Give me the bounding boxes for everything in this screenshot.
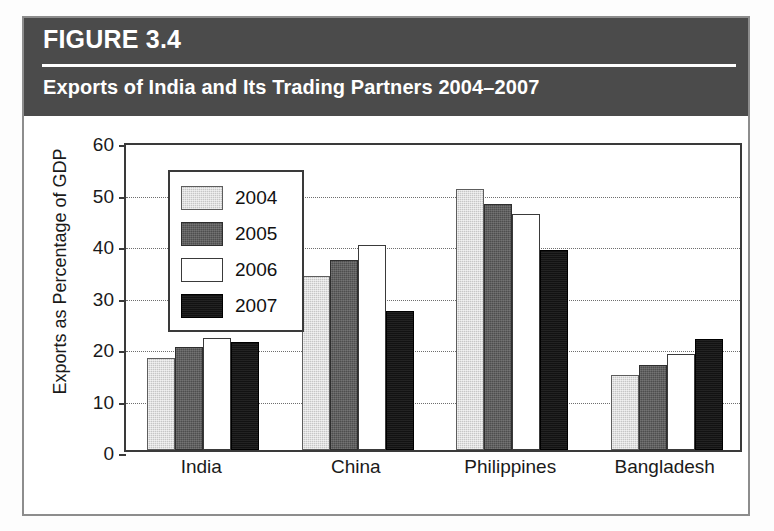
bar [302,276,330,450]
x-axis-labels: IndiaChinaPhilippinesBangladesh [124,456,742,490]
y-axis-title: Exports as Percentage of GDP [50,155,71,395]
legend-swatch [181,294,223,318]
bar [358,245,386,450]
legend-item: 2004 [170,180,302,216]
bar [386,311,414,450]
y-axis-tick-label: 20 [93,340,114,362]
y-axis-tick-mark [119,403,126,405]
bar [639,365,667,450]
y-axis-tick-mark [119,248,126,250]
x-axis-category-label: India [181,456,222,478]
bar [611,375,639,450]
bar [695,339,723,450]
legend-item: 2006 [170,252,302,288]
y-axis-tick-label: 60 [93,134,114,156]
legend-label: 2005 [235,223,277,245]
bar [203,338,231,450]
y-axis-tick-mark [119,351,126,353]
figure-container: FIGURE 3.4 Exports of India and Its Trad… [22,16,750,516]
legend-item: 2007 [170,288,302,324]
bar [147,358,175,450]
x-axis-category-label: China [331,456,381,478]
bar [667,354,695,450]
bar [512,214,540,450]
y-axis-tick-label: 10 [93,392,114,414]
bar [330,260,358,450]
figure-title: Exports of India and Its Trading Partner… [43,76,539,99]
bar [456,189,484,450]
y-axis-tick-label: 0 [103,443,114,465]
plot-area: 0102030405060 2004200520062007 [124,143,742,452]
y-axis-tick-mark [119,197,126,199]
chart-body: Exports as Percentage of GDP 01020304050… [24,116,748,514]
figure-header-band: FIGURE 3.4 Exports of India and Its Trad… [24,18,748,116]
legend-swatch [181,258,223,282]
y-axis-tick-label: 30 [93,289,114,311]
figure-number-label: FIGURE 3.4 [43,25,181,54]
bar [540,250,568,450]
legend-label: 2007 [235,295,277,317]
y-axis-tick-label: 40 [93,237,114,259]
y-axis-tick-mark [119,300,126,302]
bar [175,347,203,450]
legend-label: 2004 [235,187,277,209]
y-axis-tick-mark [119,145,126,147]
legend-swatch [181,222,223,246]
legend-swatch [181,186,223,210]
bar [231,342,259,450]
figure-title-row: Exports of India and Its Trading Partner… [24,67,748,116]
x-axis-category-label: Bangladesh [615,456,715,478]
x-axis-category-label: Philippines [464,456,556,478]
bar [484,204,512,450]
y-axis-tick-label: 50 [93,186,114,208]
figure-root: FIGURE 3.4 Exports of India and Its Trad… [0,0,774,531]
figure-number-row: FIGURE 3.4 [24,18,748,64]
bar-group [611,145,723,450]
chart-legend: 2004200520062007 [168,170,304,332]
legend-label: 2006 [235,259,277,281]
bar-group [302,145,414,450]
legend-item: 2005 [170,216,302,252]
bar-group [456,145,568,450]
